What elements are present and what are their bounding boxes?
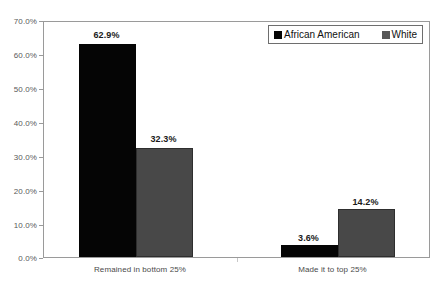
category-label-remained-bottom: Remained in bottom 25% — [45, 265, 235, 274]
bar-african-american-top — [281, 245, 338, 257]
bar-value-label-african-american-remained-bottom: 62.9% — [78, 30, 135, 40]
y-tick-label: 70.0% — [1, 17, 37, 26]
plot-area — [43, 21, 430, 258]
category-axis-divider — [237, 258, 238, 262]
legend-label-white: White — [392, 30, 418, 40]
y-tick-label: 10.0% — [1, 221, 37, 230]
legend: African American White — [268, 25, 423, 44]
bar-value-label-white-remained-bottom: 32.3% — [135, 134, 192, 144]
y-tick-label: 20.0% — [1, 187, 37, 196]
legend-swatch-black-icon — [274, 31, 282, 39]
y-tick-label: 40.0% — [1, 119, 37, 128]
bar-value-label-white-top: 14.2% — [337, 197, 394, 207]
y-tick-label: 60.0% — [1, 51, 37, 60]
bar-african-american-remained-bottom — [79, 44, 136, 257]
legend-entry-african-american: African American — [274, 30, 360, 40]
bar-white-top — [338, 209, 395, 257]
bar-white-remained-bottom — [136, 148, 193, 257]
bar-value-label-african-american-top: 3.6% — [280, 233, 337, 243]
legend-label-african-american: African American — [284, 30, 360, 40]
y-tick-label: 50.0% — [1, 85, 37, 94]
category-label-made-top: Made it to top 25% — [240, 265, 425, 274]
y-tick-mark — [39, 258, 43, 259]
legend-entry-white: White — [382, 30, 418, 40]
bar-chart: 70.0% 60.0% 50.0% 40.0% 30.0% 20.0% 10.0… — [0, 0, 448, 285]
y-tick-label: 30.0% — [1, 153, 37, 162]
legend-swatch-gray-icon — [382, 31, 390, 39]
y-tick-label: 0.0% — [1, 254, 37, 263]
